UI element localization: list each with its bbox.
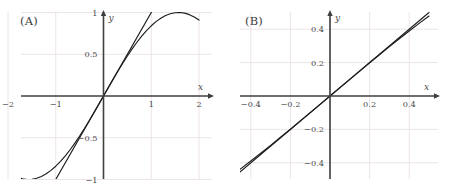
x-tick-label: −2 bbox=[2, 99, 14, 109]
panel-b-tag: (B) bbox=[245, 14, 263, 28]
y-tick-label: −0.2 bbox=[304, 124, 324, 134]
y-tick-label: 1 bbox=[92, 8, 97, 18]
y-axis-label: y bbox=[108, 13, 115, 23]
x-tick-label: −0.2 bbox=[280, 99, 300, 109]
x-tick-label: −1 bbox=[50, 99, 62, 109]
x-tick-label: 0.2 bbox=[363, 99, 376, 109]
y-tick-label: −0.5 bbox=[78, 133, 98, 143]
x-tick-label: 2 bbox=[196, 99, 201, 109]
x-axis-label: x bbox=[424, 82, 429, 92]
panel-b: xy−0.4−0.20.20.40.40.2−0.2−0.4 (B) bbox=[226, 0, 452, 191]
y-tick-label: −0.4 bbox=[304, 158, 324, 168]
panel-a-plot: xy−2−11210.5−0.5−1 bbox=[0, 0, 226, 191]
y-tick-label: 0.2 bbox=[311, 58, 324, 68]
y-axis-label: y bbox=[334, 13, 341, 23]
figure-container: xy−2−11210.5−0.5−1 (A) xy−0.4−0.20.20.40… bbox=[0, 0, 452, 191]
axes bbox=[240, 10, 440, 179]
x-tick-label: 0.4 bbox=[403, 99, 416, 109]
x-axis-arrow bbox=[208, 93, 214, 98]
axes bbox=[21, 10, 214, 179]
x-tick-label: 1 bbox=[149, 99, 154, 109]
y-axis-arrow bbox=[327, 10, 332, 16]
y-tick-label: 0.5 bbox=[84, 49, 97, 59]
panel-a-tag: (A) bbox=[20, 14, 38, 28]
panel-b-plot: xy−0.4−0.20.20.40.40.2−0.2−0.4 bbox=[226, 0, 452, 191]
x-tick-label: −0.4 bbox=[241, 99, 261, 109]
y-tick-label: 0.4 bbox=[311, 24, 324, 34]
x-axis-arrow bbox=[434, 93, 440, 98]
y-tick-label: −1 bbox=[85, 175, 97, 185]
x-axis-label: x bbox=[198, 82, 203, 92]
panel-a: xy−2−11210.5−0.5−1 (A) bbox=[0, 0, 226, 191]
